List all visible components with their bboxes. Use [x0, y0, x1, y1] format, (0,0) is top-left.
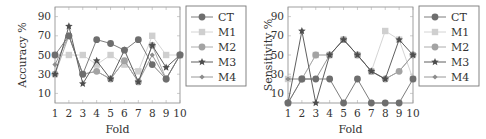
- data-point-ct: [79, 71, 86, 78]
- series-ct: [285, 76, 417, 107]
- series-line-m4: [288, 40, 413, 79]
- y-tick-label: 90: [38, 10, 51, 22]
- x-tick-label: 7: [368, 107, 375, 119]
- y-tick-label: 70: [38, 29, 51, 41]
- data-point-m1: [149, 33, 155, 39]
- x-tick-label: 8: [382, 107, 389, 119]
- data-point-m2: [312, 52, 319, 59]
- data-point-ct: [52, 52, 59, 59]
- data-point-m1: [163, 52, 169, 58]
- x-tick-label: 9: [396, 107, 403, 119]
- series-line-m2: [288, 40, 413, 103]
- legend-label: CT: [451, 11, 467, 24]
- data-point-m3: [65, 22, 73, 29]
- legend: CTM1M2M3M4: [419, 6, 479, 86]
- legend-label: CT: [218, 11, 234, 24]
- x-tick-label: 10: [173, 107, 186, 119]
- data-point-m1: [382, 28, 388, 34]
- y-axis-title: Accuracy %: [16, 22, 29, 89]
- series-m4: [52, 33, 182, 84]
- data-point-ct: [65, 32, 72, 39]
- data-point-m3: [79, 80, 87, 87]
- series-line-ct: [288, 79, 413, 103]
- x-tick-label: 10: [406, 107, 419, 119]
- legend-label: M4: [218, 71, 236, 84]
- data-point-ct: [93, 36, 100, 43]
- data-point-m1: [135, 68, 141, 74]
- data-point-m4: [150, 52, 155, 57]
- data-point-ct: [326, 76, 333, 83]
- data-point-m2: [396, 68, 403, 75]
- data-point-ct: [354, 76, 361, 83]
- data-point-m3: [312, 99, 320, 106]
- legend-marker-circle: [199, 44, 206, 51]
- data-point-ct: [340, 100, 347, 107]
- legend-label: M1: [451, 26, 469, 39]
- data-point-m1: [107, 52, 113, 58]
- legend-label: M3: [218, 56, 236, 69]
- y-axis-title: Sensitivity %: [262, 19, 275, 92]
- x-tick-label: 5: [340, 107, 347, 119]
- legend-box: [419, 6, 479, 86]
- x-tick-label: 2: [299, 107, 306, 119]
- data-point-ct: [121, 47, 128, 54]
- legend-label: M1: [218, 26, 236, 39]
- data-point-m1: [66, 52, 72, 58]
- y-tick-label: 30: [38, 68, 51, 80]
- data-point-ct: [368, 100, 375, 107]
- data-point-ct: [410, 76, 417, 83]
- data-point-ct: [298, 76, 305, 83]
- data-point-m2: [93, 68, 100, 75]
- data-point-ct: [285, 100, 292, 107]
- legend-marker-square: [199, 29, 205, 35]
- legend: CTM1M2M3M4: [186, 6, 246, 86]
- data-point-ct: [163, 76, 170, 83]
- data-point-m1: [80, 52, 86, 58]
- data-point-ct: [177, 52, 184, 59]
- y-tick-label: 10: [38, 87, 51, 99]
- x-tick-label: 8: [149, 107, 156, 119]
- data-point-ct: [107, 40, 114, 47]
- x-tick-label: 5: [107, 107, 114, 119]
- series-line-m3: [288, 31, 413, 103]
- x-tick-label: 7: [135, 107, 142, 119]
- data-point-ct: [135, 36, 142, 43]
- x-tick-label: 1: [52, 107, 59, 119]
- data-point-ct: [312, 76, 319, 83]
- series-line-m4: [55, 36, 180, 82]
- data-point-ct: [396, 100, 403, 107]
- chart-2: 103050709012345678910FoldSensitivity %CT…: [262, 6, 479, 136]
- legend-marker-circle: [432, 14, 439, 21]
- legend-label: M3: [451, 56, 469, 69]
- x-tick-label: 6: [121, 107, 128, 119]
- legend-box: [186, 6, 246, 86]
- x-tick-label: 4: [326, 107, 333, 119]
- figure: 103050709012345678910FoldAccuracy %CTM1M…: [0, 0, 486, 139]
- legend-label: M4: [451, 71, 469, 84]
- x-tick-label: 2: [66, 107, 73, 119]
- y-tick-label: 50: [38, 49, 51, 61]
- series-line-ct: [55, 36, 180, 79]
- x-tick-label: 3: [79, 107, 86, 119]
- x-tick-label: 9: [163, 107, 170, 119]
- x-tick-label: 4: [93, 107, 100, 119]
- legend-label: M2: [218, 41, 236, 54]
- charts-svg: 103050709012345678910FoldAccuracy %CTM1M…: [0, 0, 486, 139]
- data-point-m2: [121, 57, 128, 64]
- legend-marker-square: [432, 29, 438, 35]
- legend-marker-circle: [199, 14, 206, 21]
- data-point-ct: [149, 61, 156, 68]
- x-tick-label: 3: [312, 107, 319, 119]
- x-axis-title: Fold: [338, 123, 362, 136]
- series-m4: [285, 37, 415, 82]
- x-axis-title: Fold: [105, 123, 129, 136]
- x-tick-label: 6: [354, 107, 361, 119]
- legend-marker-circle: [432, 44, 439, 51]
- data-point-ct: [382, 100, 389, 107]
- x-tick-label: 1: [285, 107, 292, 119]
- legend-label: M2: [451, 41, 469, 54]
- series-line-m2: [55, 36, 180, 82]
- series-m3: [284, 27, 417, 106]
- series-line-m1: [55, 36, 180, 72]
- chart-1: 103050709012345678910FoldAccuracy %CTM1M…: [16, 6, 246, 136]
